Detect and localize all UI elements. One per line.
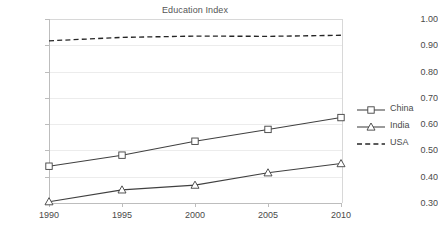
legend-label: China bbox=[386, 103, 414, 113]
education-index-chart: Education Index 0.300.400.500.600.700.80… bbox=[0, 0, 438, 246]
square-marker-icon bbox=[338, 114, 344, 120]
legend-key bbox=[356, 102, 386, 114]
legend-key bbox=[356, 136, 386, 148]
series-india bbox=[45, 160, 345, 205]
legend-item-china[interactable]: China bbox=[356, 99, 438, 116]
square-marker-icon bbox=[192, 138, 198, 144]
legend-item-usa[interactable]: USA bbox=[356, 133, 438, 150]
triangle-marker-icon bbox=[337, 160, 345, 167]
series-line bbox=[49, 35, 341, 41]
series-china bbox=[46, 114, 344, 169]
square-marker-icon bbox=[46, 163, 52, 169]
square-marker-icon bbox=[119, 152, 125, 158]
square-marker-icon bbox=[265, 126, 271, 132]
legend-label: USA bbox=[386, 137, 409, 147]
square-marker-icon bbox=[368, 106, 374, 112]
chart-legend: ChinaIndiaUSA bbox=[356, 99, 438, 150]
legend-item-india[interactable]: India bbox=[356, 116, 438, 133]
series-usa bbox=[49, 35, 341, 41]
legend-key bbox=[356, 119, 386, 131]
legend-label: India bbox=[386, 120, 410, 130]
